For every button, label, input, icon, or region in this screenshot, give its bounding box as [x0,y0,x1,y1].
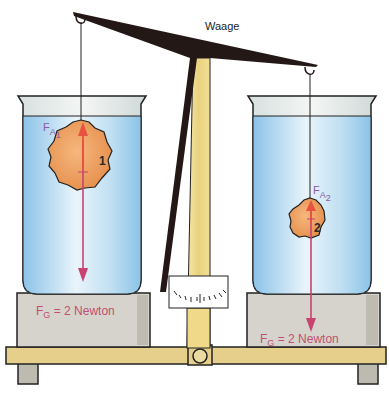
weight-label-left: FG = 2 Newton [36,305,115,320]
weight-sub: G [43,310,50,320]
buoyancy-sub-n: 2 [326,193,331,203]
buoyancy-sub-a: A [50,127,56,137]
buoyancy-symbol: F [43,121,50,133]
weight-value: = 2 Newton [54,304,115,318]
weight-value: = 2 Newton [278,332,339,346]
weight-sub: G [267,338,274,348]
right-beaker [248,96,376,294]
weight-label-right: FG = 2 Newton [260,333,339,348]
body-1-number: 1 [99,155,106,167]
body-2-number: 2 [314,222,321,234]
title-label: Waage [205,21,239,32]
left-platform [17,293,150,347]
scale-dial [169,276,228,308]
balance-diagram: Waage FA1 1 FG = 2 Newton FA2 2 FG = 2 N… [0,0,389,398]
base-board [6,345,386,384]
buoyancy-label-2: FA2 [313,185,331,196]
buoyancy-sub-n: 1 [56,130,61,140]
buoyancy-symbol: F [313,184,320,196]
buoyancy-sub-a: A [320,190,326,200]
buoyancy-label-1: FA1 [43,122,61,133]
